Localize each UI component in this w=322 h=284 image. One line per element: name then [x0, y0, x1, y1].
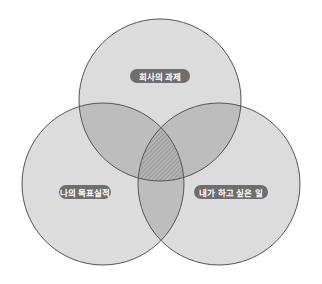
label-my-goal: 나의 목표실적 — [59, 185, 111, 199]
label-company-task-text: 회사의 과제 — [139, 72, 182, 82]
label-my-goal-text: 나의 목표실적 — [60, 188, 111, 198]
label-what-i-want-text: 내가 하고 싶은 일 — [199, 188, 264, 198]
label-company-task: 회사의 과제 — [130, 69, 190, 83]
label-what-i-want: 내가 하고 싶은 일 — [194, 185, 268, 199]
venn-diagram: 회사의 과제 나의 목표실적 내가 하고 싶은 일 — [0, 0, 322, 284]
